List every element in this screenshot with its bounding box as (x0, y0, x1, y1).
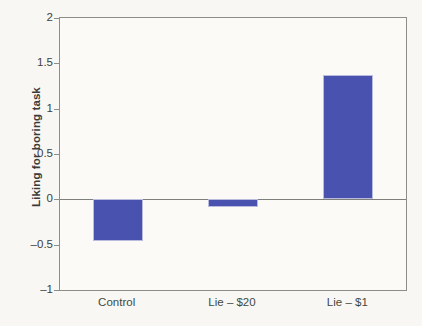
bar-control (93, 199, 143, 241)
y-axis-tick (54, 154, 60, 155)
y-axis-tick-label: 0 (0, 192, 53, 204)
y-axis-tick (54, 109, 60, 110)
y-axis-tick-label: –1 (0, 283, 53, 295)
y-axis-tick (54, 199, 60, 200)
bar-lie-1 (323, 75, 373, 199)
x-axis-tick-labels: ControlLie – $20Lie – $1 (59, 296, 407, 318)
bar-chart-figure: Liking for boring task 21.510.50–0.5–1 C… (0, 0, 422, 326)
y-axis-tick-label: 1.5 (0, 56, 53, 68)
y-axis-tick-labels: 21.510.50–0.5–1 (0, 17, 53, 291)
y-axis-tick-label: –0.5 (0, 238, 53, 250)
x-axis-tick-label: Lie – $20 (208, 296, 255, 308)
y-axis-tick (54, 290, 60, 291)
y-axis-tick (54, 245, 60, 246)
plot-area (59, 17, 407, 291)
y-axis-tick (54, 63, 60, 64)
y-axis-tick-label: 2 (0, 11, 53, 23)
y-axis-tick-label: 0.5 (0, 147, 53, 159)
x-axis-tick-label: Lie – $1 (327, 296, 368, 308)
y-axis-tick (54, 18, 60, 19)
bar-lie-20 (208, 199, 258, 207)
y-axis-tick-label: 1 (0, 102, 53, 114)
x-axis-tick-label: Control (98, 296, 135, 308)
